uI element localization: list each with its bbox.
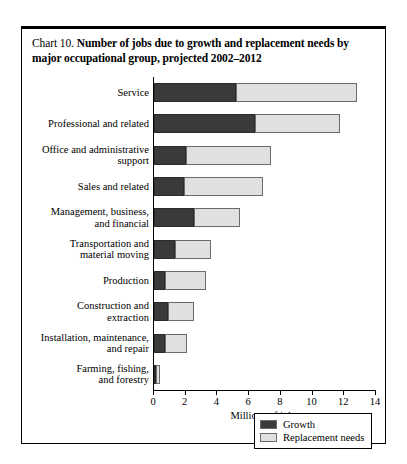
bar-segment-replacement: [165, 271, 206, 290]
bar-row: [154, 240, 211, 259]
bar-row: [154, 334, 187, 353]
bar-segment-growth: [154, 271, 165, 290]
bar-segment-growth: [154, 302, 168, 321]
x-axis-tick-label: 2: [173, 396, 197, 407]
bar-segment-growth: [154, 177, 184, 196]
category-label: Professional and related: [22, 118, 153, 130]
plot-area: 02468101214: [153, 77, 375, 390]
legend-label: Replacement needs: [283, 432, 364, 444]
x-axis-tick-label: 6: [236, 396, 260, 407]
chart-title-text: Number of jobs due to growth and replace…: [32, 37, 349, 64]
x-axis-tick-label: 0: [141, 396, 165, 407]
x-axis-tick-label: 10: [300, 396, 324, 407]
x-axis-tick-label: 14: [363, 396, 387, 407]
bar-segment-replacement: [156, 365, 160, 384]
chart-legend: GrowthReplacement needs: [254, 413, 372, 449]
bar-segment-growth: [154, 208, 194, 227]
x-axis-tick-label: 8: [268, 396, 292, 407]
category-label: Management, business, and financial: [22, 206, 153, 229]
category-axis-labels: ServiceProfessional and relatedOffice an…: [22, 77, 153, 390]
bar-segment-growth: [154, 146, 186, 165]
x-axis-tick: [312, 390, 313, 395]
x-axis-tick: [248, 390, 249, 395]
bar-segment-growth: [154, 334, 165, 353]
legend-swatch-icon: [260, 420, 277, 429]
category-label: Construction and extraction: [22, 300, 153, 323]
chart-page: Chart 10. Number of jobs due to growth a…: [0, 0, 407, 464]
bar-row: [154, 365, 160, 384]
x-axis-tick: [375, 390, 376, 395]
plot-wrapper: ServiceProfessional and relatedOffice an…: [22, 77, 385, 422]
x-axis-tick-label: 12: [331, 396, 355, 407]
x-axis-tick: [216, 390, 217, 395]
bar-segment-replacement: [194, 208, 240, 227]
bar-segment-replacement: [255, 114, 339, 133]
x-axis-line: [153, 390, 375, 391]
bar-row: [154, 146, 271, 165]
bar-segment-growth: [154, 240, 175, 259]
bar-segment-replacement: [175, 240, 211, 259]
x-axis-tick: [280, 390, 281, 395]
category-label: Farming, fishing, and forestry: [22, 363, 153, 386]
category-label: Service: [22, 87, 153, 99]
legend-item: Replacement needs: [260, 431, 364, 444]
legend-label: Growth: [283, 419, 315, 431]
x-axis-tick: [153, 390, 154, 395]
category-label: Office and administrative support: [22, 144, 153, 167]
legend-item: Growth: [260, 418, 364, 431]
bar-row: [154, 114, 340, 133]
category-label: Installation, maintenance, and repair: [22, 332, 153, 355]
bar-row: [154, 83, 357, 102]
x-axis-tick-label: 4: [204, 396, 228, 407]
bar-segment-replacement: [236, 83, 357, 102]
chart-title: Chart 10. Number of jobs due to growth a…: [32, 36, 380, 66]
category-label: Transportation and material moving: [22, 238, 153, 261]
bar-row: [154, 177, 263, 196]
bar-segment-replacement: [184, 177, 263, 196]
chart-number-label: Chart 10.: [32, 37, 74, 49]
figure-frame: Chart 10. Number of jobs due to growth a…: [21, 26, 386, 444]
x-axis-tick: [343, 390, 344, 395]
x-axis-tick: [185, 390, 186, 395]
bar-row: [154, 271, 206, 290]
bar-segment-replacement: [186, 146, 272, 165]
bar-row: [154, 208, 240, 227]
bar-row: [154, 302, 194, 321]
bar-segment-replacement: [165, 334, 187, 353]
legend-swatch-icon: [260, 433, 277, 442]
bar-segment-replacement: [168, 302, 193, 321]
bar-segment-growth: [154, 83, 236, 102]
bar-segment-growth: [154, 114, 255, 133]
category-label: Sales and related: [22, 181, 153, 193]
category-label: Production: [22, 275, 153, 287]
